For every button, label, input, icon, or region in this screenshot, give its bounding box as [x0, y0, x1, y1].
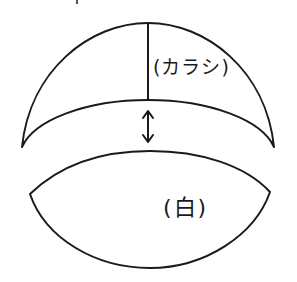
lower-piece-label: (白) — [163, 197, 208, 219]
diagram-drawing — [0, 0, 297, 282]
upper-piece-label: (カラシ) — [153, 58, 230, 77]
double-arrow-icon — [143, 111, 153, 142]
diagram-canvas: (カラシ) (白) — [0, 0, 297, 282]
lower-lens-shape — [30, 151, 270, 268]
